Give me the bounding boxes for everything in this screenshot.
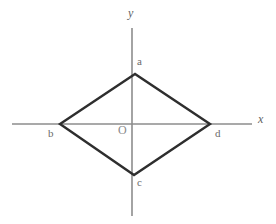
x-axis-label: x <box>258 114 263 125</box>
vertex-label-b: b <box>48 128 54 139</box>
y-axis-label: y <box>128 8 133 19</box>
origin-label: O <box>118 125 127 136</box>
vertex-label-d: d <box>215 128 221 139</box>
vertex-label-c: c <box>137 177 142 188</box>
vertex-label-a: a <box>137 56 142 67</box>
diagram-canvas <box>0 0 276 224</box>
coordinate-diagram: y x O a b c d <box>0 0 276 224</box>
